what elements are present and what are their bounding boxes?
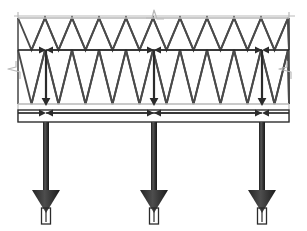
column-shaft-2 bbox=[151, 122, 157, 190]
diagram-canvas bbox=[0, 0, 307, 231]
column-shaft-1 bbox=[43, 122, 49, 190]
support-beam-band bbox=[18, 110, 289, 122]
truss-load-path-figure bbox=[0, 0, 307, 231]
support-beam-group bbox=[18, 110, 289, 122]
column-shaft-3 bbox=[259, 122, 265, 190]
